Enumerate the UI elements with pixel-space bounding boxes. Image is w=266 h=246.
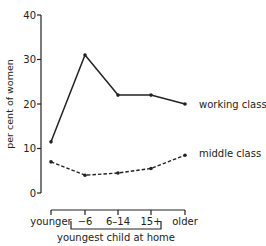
series-label: middle class: [199, 148, 261, 159]
x-tick-label: younger: [30, 216, 72, 227]
data-point: [83, 173, 87, 177]
series-label: working class: [199, 99, 266, 110]
y-tick-label: 0: [30, 188, 36, 199]
x-tick-label: 15+: [140, 216, 161, 227]
x-tick-label: 6–14: [106, 216, 130, 227]
data-point: [49, 160, 53, 164]
y-axis-label: per cent of women: [4, 59, 15, 149]
series-group: working classmiddle class: [49, 53, 266, 177]
y-tick-label: 20: [23, 99, 36, 110]
y-axis: 010203040: [23, 10, 41, 199]
data-point: [83, 53, 87, 57]
data-point: [116, 93, 120, 97]
x-axis-label: youngest child at home: [57, 232, 175, 243]
series-line: [51, 55, 185, 142]
x-tick-label: −6: [78, 216, 93, 227]
data-point: [183, 102, 187, 106]
x-axis: younger−66–1415+older: [30, 210, 198, 229]
data-point: [149, 167, 153, 171]
y-tick-label: 40: [23, 10, 36, 21]
series-working-class: working class: [49, 53, 266, 143]
data-point: [149, 93, 153, 97]
data-point: [183, 153, 187, 157]
x-tick-label: older: [172, 216, 198, 227]
y-tick-label: 10: [23, 143, 36, 154]
y-tick-label: 30: [23, 54, 36, 65]
series-middle-class: middle class: [49, 148, 261, 177]
data-point: [49, 140, 53, 144]
data-point: [116, 171, 120, 175]
line-chart: 010203040 per cent of women younger−66–1…: [0, 0, 266, 246]
